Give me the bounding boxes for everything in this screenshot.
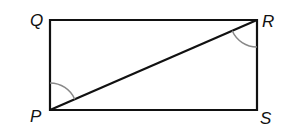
vertex-label-p: P	[30, 107, 42, 126]
angle-arc-r	[232, 31, 257, 47]
rectangle-diagram: Q R S P	[0, 0, 286, 137]
diagonal-pr	[50, 20, 257, 110]
vertex-label-r: R	[262, 12, 274, 31]
diagram-canvas: Q R S P	[0, 0, 286, 137]
vertex-label-q: Q	[30, 11, 43, 30]
vertex-label-s: S	[260, 109, 272, 128]
angle-arc-p	[50, 83, 75, 99]
